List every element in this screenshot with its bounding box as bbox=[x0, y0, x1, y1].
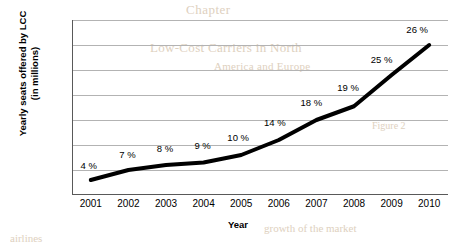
data-label-2010: 26 % bbox=[406, 24, 428, 35]
data-label-2003: 8 % bbox=[157, 143, 173, 154]
data-label-2001: 4 % bbox=[81, 160, 97, 171]
bleed-through-text: airlines bbox=[10, 232, 42, 243]
data-label-2002: 7 % bbox=[119, 149, 135, 160]
data-label-2004: 9 % bbox=[194, 139, 210, 150]
line-chart: Chapter Low-Cost Carriers in North Ameri… bbox=[0, 0, 454, 243]
x-axis-title: Year bbox=[0, 219, 454, 230]
x-axis-tick-label-2010: 2010 bbox=[407, 198, 451, 209]
data-label-2007: 18 % bbox=[301, 97, 323, 108]
y-axis-title-line2: (in millions) bbox=[28, 0, 40, 164]
x-axis-tick-labels: 2001200220032004200520062007200820092010 bbox=[72, 198, 448, 214]
data-label-2008: 19 % bbox=[337, 82, 359, 93]
y-axis-title-line1: Yearly seats offered by LCC bbox=[17, 0, 29, 164]
data-point-labels: 4 %7 %8 %9 %10 %14 %18 %19 %25 %26 % bbox=[72, 20, 448, 195]
y-axis-title: Yearly seats offered by LCC (in millions… bbox=[17, 0, 40, 164]
data-label-2009: 25 % bbox=[371, 54, 393, 65]
data-label-2005: 10 % bbox=[227, 132, 249, 143]
data-label-2006: 14 % bbox=[264, 117, 286, 128]
bleed-through-text: Chapter bbox=[186, 2, 231, 18]
